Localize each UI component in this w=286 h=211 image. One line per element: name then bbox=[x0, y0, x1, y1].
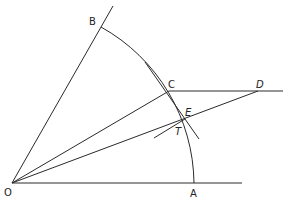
label-d: D bbox=[256, 79, 264, 90]
label-a: A bbox=[190, 188, 197, 199]
label-t: T bbox=[175, 126, 182, 137]
label-o: O bbox=[4, 187, 12, 198]
line-ob bbox=[12, 6, 113, 183]
label-b: B bbox=[89, 16, 96, 27]
label-e: E bbox=[185, 107, 192, 118]
geometry-diagram: B C D E T O A bbox=[0, 0, 286, 211]
label-c: C bbox=[168, 79, 175, 90]
line-od bbox=[12, 91, 258, 183]
arc-ba bbox=[101, 27, 194, 183]
line-oc bbox=[12, 91, 169, 183]
